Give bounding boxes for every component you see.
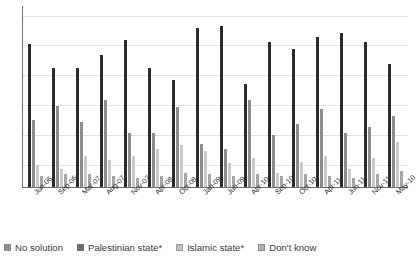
bar bbox=[172, 80, 175, 187]
bar-group bbox=[384, 6, 408, 187]
legend-swatch-icon bbox=[176, 244, 183, 251]
legend-label: Don't know bbox=[269, 242, 316, 253]
bar-group bbox=[216, 6, 240, 187]
legend-item[interactable]: No solution bbox=[4, 242, 63, 253]
bar bbox=[244, 84, 247, 187]
bar bbox=[340, 33, 343, 187]
bar bbox=[100, 55, 103, 187]
legend-label: No solution bbox=[15, 242, 63, 253]
plot-area bbox=[22, 6, 408, 188]
bar-group bbox=[71, 6, 95, 187]
bar bbox=[132, 156, 135, 187]
legend-swatch-icon bbox=[4, 244, 11, 251]
bar-group bbox=[360, 6, 384, 187]
bar bbox=[324, 156, 327, 187]
bar bbox=[180, 145, 183, 187]
bar-groups bbox=[23, 6, 408, 187]
bar-group bbox=[23, 6, 47, 187]
grouped-bar-chart: Jun-06Sep-06Mar-07Aug-07Nov-07Apr-08Oct-… bbox=[0, 0, 416, 259]
legend-item[interactable]: Islamic state* bbox=[176, 242, 244, 253]
bar-group bbox=[264, 6, 288, 187]
bar bbox=[204, 151, 207, 187]
bar bbox=[296, 124, 299, 187]
bar-group bbox=[95, 6, 119, 187]
bar bbox=[220, 26, 223, 187]
bar bbox=[368, 127, 371, 187]
legend-swatch-icon bbox=[77, 244, 84, 251]
bar bbox=[268, 42, 271, 187]
bar bbox=[124, 40, 127, 187]
x-axis-tick-labels: Jun-06Sep-06Mar-07Aug-07Nov-07Apr-08Oct-… bbox=[22, 190, 408, 234]
bar bbox=[344, 133, 347, 187]
bar bbox=[148, 68, 151, 187]
bar-group bbox=[288, 6, 312, 187]
bar bbox=[128, 133, 131, 187]
bar bbox=[292, 49, 295, 187]
legend-label: Palestinian state* bbox=[88, 242, 162, 253]
legend-item[interactable]: Don't know bbox=[258, 242, 316, 253]
bar-group bbox=[336, 6, 360, 187]
bar-group bbox=[119, 6, 143, 187]
bar bbox=[392, 116, 395, 187]
bar bbox=[388, 64, 391, 187]
bar bbox=[372, 158, 375, 187]
bar bbox=[52, 68, 55, 187]
bar-group bbox=[240, 6, 264, 187]
legend-swatch-icon bbox=[258, 244, 265, 251]
bar bbox=[32, 120, 35, 187]
legend-label: Islamic state* bbox=[187, 242, 244, 253]
bar bbox=[152, 133, 155, 187]
bar bbox=[104, 100, 107, 187]
bar bbox=[364, 42, 367, 187]
bar bbox=[320, 109, 323, 187]
bar-group bbox=[312, 6, 336, 187]
bar-group bbox=[47, 6, 71, 187]
bar-group bbox=[191, 6, 215, 187]
bar-group bbox=[143, 6, 167, 187]
bar bbox=[80, 122, 83, 187]
bar bbox=[224, 149, 227, 187]
bar bbox=[272, 135, 275, 187]
bar bbox=[28, 44, 31, 187]
bar-group bbox=[167, 6, 191, 187]
bar bbox=[76, 68, 79, 187]
bar bbox=[156, 149, 159, 187]
chart-legend: No solutionPalestinian state*Islamic sta… bbox=[4, 242, 412, 253]
bar bbox=[316, 37, 319, 187]
bar bbox=[176, 107, 179, 187]
legend-item[interactable]: Palestinian state* bbox=[77, 242, 162, 253]
bar bbox=[200, 144, 203, 187]
bar bbox=[396, 142, 399, 187]
bar bbox=[56, 106, 59, 187]
bar bbox=[196, 28, 199, 187]
bar bbox=[248, 100, 251, 187]
